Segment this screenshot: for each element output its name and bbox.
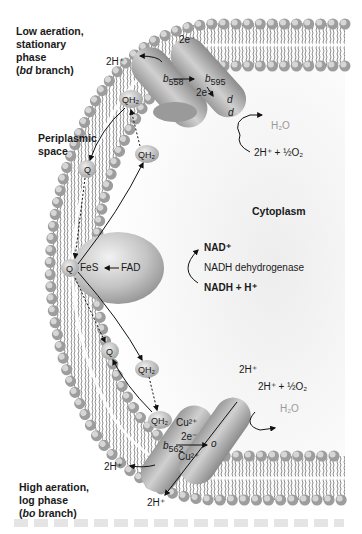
bo-oxygen-reactant-label: 2H⁺ + ½O₂ xyxy=(258,381,307,393)
bd-heading-line3: phase xyxy=(16,51,84,64)
bd-heading-line1: Low aeration, xyxy=(16,25,84,38)
cyt-b595-label: b595 xyxy=(205,73,226,88)
respiratory-chain-diagram: Low aeration, stationary phase (bd branc… xyxy=(0,0,362,534)
bd-branch-heading: Low aeration, stationary phase (bd branc… xyxy=(16,25,84,77)
bo-heading-line2: log phase xyxy=(19,494,89,507)
bd-oxygen-reactant-label: 2H⁺ + ½O₂ xyxy=(254,147,303,159)
bo-heading-line1: High aeration, xyxy=(19,481,89,494)
qh2-label-top: QH₂ xyxy=(122,94,139,106)
bo-branch-heading: High aeration, log phase (bo branch) xyxy=(19,481,89,520)
bo-proton-out-bottom-label: 2H⁺ xyxy=(147,497,165,509)
cyt-d-label-1: d xyxy=(227,94,233,106)
fes-label: FeS xyxy=(80,262,98,274)
q-label-upper: Q xyxy=(84,164,91,176)
q-label-dehydrogenase: Q xyxy=(66,263,73,275)
bd-proton-out-label: 2H⁺ xyxy=(106,56,124,68)
bo-water-product-label: H₂O xyxy=(280,403,299,415)
periplasm-label: Periplasmic space xyxy=(38,132,98,158)
bd-electrons-top-label: 2e⁻ xyxy=(179,34,195,46)
nadh-dehydrogenase-label: NADH dehydrogenase xyxy=(204,262,304,274)
bd-heading-line4: (bd branch) xyxy=(16,64,84,77)
q-label-lower: Q xyxy=(106,346,113,358)
cu-bottom-label: Cu²⁺ xyxy=(178,451,199,463)
bd-water-product-label: H₂O xyxy=(271,120,290,132)
cyt-o-label: o xyxy=(211,438,217,450)
cropped-caption-strip xyxy=(14,519,344,527)
fad-label: FAD xyxy=(121,262,140,274)
bo-proton-out-left-label: 2H⁺ xyxy=(104,461,122,473)
cytoplasm-label: Cytoplasm xyxy=(252,205,306,217)
qh2-label-upper-mid: QH₂ xyxy=(138,149,155,161)
nad-plus-label: NAD⁺ xyxy=(204,242,231,254)
qh2-label-bottom: QH₂ xyxy=(151,415,168,427)
cyt-d-label-2: d xyxy=(228,107,234,119)
qh2-label-lower-mid: QH₂ xyxy=(138,364,155,376)
cyt-b558-label: b558 xyxy=(163,73,184,88)
cu-top-label: Cu²⁺ xyxy=(176,417,197,429)
bd-electrons-mid-label: 2e⁻ xyxy=(196,87,212,99)
bo-proton-in-label: 2H⁺ xyxy=(239,364,257,376)
bd-heading-line2: stationary xyxy=(16,38,84,51)
nadh-substrate-label: NADH + H⁺ xyxy=(204,282,257,294)
